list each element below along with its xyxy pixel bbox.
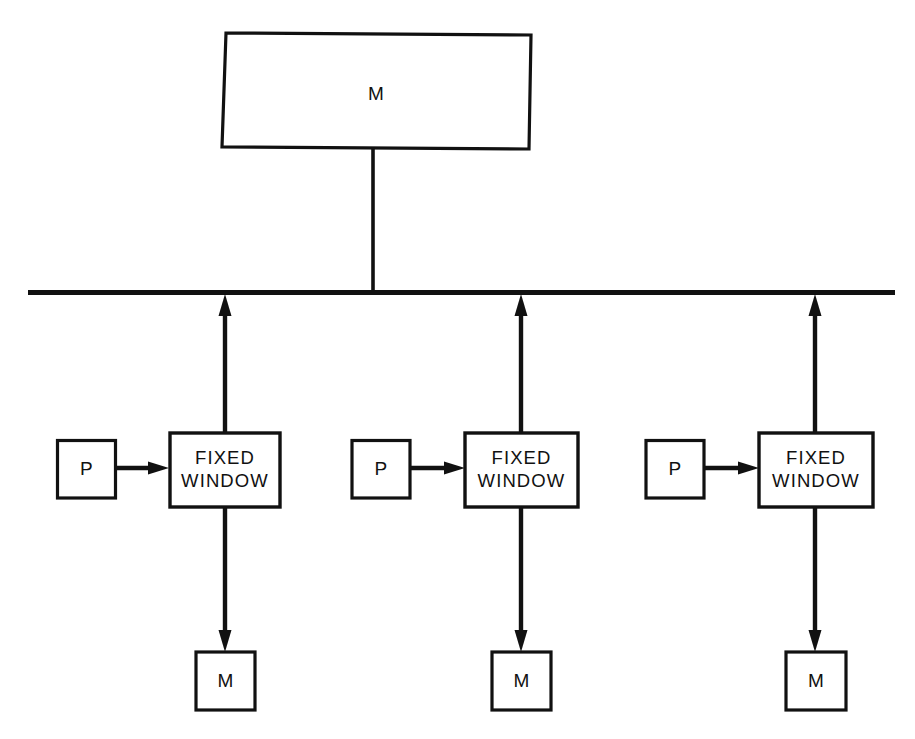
- arrow-up-icon: [219, 294, 232, 316]
- arrow-up-icon: [515, 294, 528, 316]
- arrow-right-icon: [148, 462, 169, 475]
- arrow-right-icon: [738, 462, 759, 475]
- fixed-window-1-label-line1: FIXED: [195, 447, 255, 468]
- processor-3-node[interactable]: P: [646, 441, 704, 499]
- arrow-right-icon: [444, 462, 465, 475]
- fixed-window-3-label-line2: WINDOW: [772, 470, 860, 491]
- memory-3-node[interactable]: M: [786, 652, 846, 710]
- arrow-down-icon: [515, 630, 528, 652]
- arrow-up-icon: [809, 294, 822, 316]
- group-3: P FIXED WINDOW M: [646, 294, 873, 710]
- fixed-window-3-to-memory-3-connector: [809, 507, 822, 652]
- group-1: P FIXED WINDOW M: [58, 294, 281, 710]
- fixed-window-3-to-bus-connector: [809, 294, 822, 433]
- fixed-window-1-node[interactable]: FIXED WINDOW: [170, 433, 280, 507]
- processor-2-label: P: [374, 458, 387, 479]
- processor-3-label: P: [668, 458, 681, 479]
- fixed-window-3-node[interactable]: FIXED WINDOW: [759, 433, 873, 507]
- arrow-down-icon: [219, 630, 232, 652]
- group-2: P FIXED WINDOW M: [352, 294, 578, 710]
- arrow-down-icon: [809, 630, 822, 652]
- processor-1-to-fixed-window-1-connector: [116, 462, 169, 475]
- processor-2-node[interactable]: P: [352, 441, 410, 499]
- memory-1-node[interactable]: M: [196, 652, 255, 710]
- fixed-window-2-label-line1: FIXED: [492, 447, 552, 468]
- memory-2-label: M: [513, 670, 529, 691]
- processor-3-to-fixed-window-3-connector: [704, 462, 759, 475]
- memory-2-node[interactable]: M: [492, 652, 551, 710]
- diagram-svg: M P: [0, 0, 915, 739]
- memory-3-label: M: [808, 670, 824, 691]
- fixed-window-1-to-memory-1-connector: [219, 507, 232, 652]
- fixed-window-2-to-memory-2-connector: [515, 507, 528, 652]
- diagram-canvas: M P: [0, 0, 915, 739]
- fixed-window-1-to-bus-connector: [219, 294, 232, 433]
- memory-top-node[interactable]: M: [222, 33, 531, 149]
- memory-1-label: M: [217, 670, 233, 691]
- memory-top-label: M: [368, 83, 384, 104]
- fixed-window-2-label-line2: WINDOW: [478, 470, 566, 491]
- fixed-window-2-to-bus-connector: [515, 294, 528, 433]
- processor-2-to-fixed-window-2-connector: [410, 462, 465, 475]
- processor-1-label: P: [80, 458, 93, 479]
- fixed-window-2-node[interactable]: FIXED WINDOW: [465, 433, 578, 507]
- fixed-window-1-label-line2: WINDOW: [181, 470, 269, 491]
- processor-1-node[interactable]: P: [58, 441, 116, 499]
- fixed-window-3-label-line1: FIXED: [786, 447, 846, 468]
